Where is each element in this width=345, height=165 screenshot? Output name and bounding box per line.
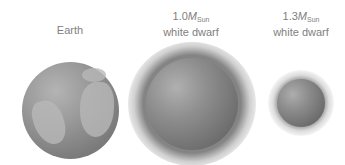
white-dwarf-2-label: 1.3MSun white dwarf <box>261 10 341 39</box>
white-dwarf-1-sphere <box>146 58 238 150</box>
earth-globe <box>22 62 119 159</box>
africa-landmass <box>80 82 114 137</box>
white-dwarf-1-label: 1.0MSun white dwarf <box>151 10 231 39</box>
mass-label: 1.3MSun <box>261 10 341 26</box>
type-label: white dwarf <box>261 26 341 39</box>
earth-label: Earth <box>40 24 100 37</box>
type-label: white dwarf <box>151 26 231 39</box>
south-america-landmass <box>29 97 70 148</box>
earth-label-text: Earth <box>57 24 83 36</box>
mass-label: 1.0MSun <box>151 10 231 26</box>
white-dwarf-2-sphere <box>277 79 325 127</box>
europe-landmass <box>82 68 106 82</box>
